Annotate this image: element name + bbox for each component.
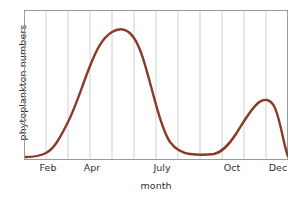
phytoplankton-curve: [26, 29, 288, 157]
x-tick-label-feb: Feb: [40, 162, 57, 173]
x-tick-labels: Feb Apr July Oct Dec: [0, 162, 301, 178]
plot-area: [24, 10, 288, 160]
x-axis-title: month: [24, 180, 288, 191]
phytoplankton-chart-figure: phytoplankton numbers Fe: [0, 0, 301, 199]
x-tick-label-apr: Apr: [84, 162, 100, 173]
x-tick-label-dec: Dec: [269, 162, 287, 173]
chart-svg: [24, 10, 288, 160]
x-tick-label-oct: Oct: [224, 162, 240, 173]
x-tick-label-july: July: [153, 162, 170, 173]
